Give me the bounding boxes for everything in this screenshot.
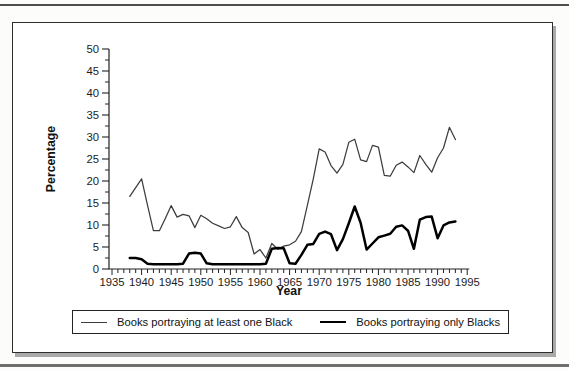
y-tick-label: 15 (86, 197, 99, 209)
x-tick-label: 1970 (307, 276, 332, 288)
axes (109, 49, 469, 269)
legend-thin-line-sample (81, 322, 107, 323)
series-line-1 (130, 207, 456, 265)
y-tick-label: 40 (86, 87, 99, 99)
y-tick-label: 50 (86, 43, 99, 55)
legend: Books portraying at least one Black Book… (72, 310, 509, 334)
legend-label-at-least-one: Books portraying at least one Black (117, 316, 292, 328)
x-tick-label: 1945 (159, 276, 184, 288)
chart-panel: 0510152025303540455019351940194519501955… (12, 22, 553, 353)
x-tick-label: 1935 (99, 276, 124, 288)
legend-item-at-least-one: Books portraying at least one Black (81, 316, 292, 328)
figure-page: 0510152025303540455019351940194519501955… (0, 0, 569, 371)
x-tick-label: 1995 (455, 276, 480, 288)
y-tick-label: 35 (86, 109, 99, 121)
y-tick-label: 5 (93, 241, 99, 253)
x-axis-title: Year (276, 284, 302, 298)
legend-label-only-blacks: Books portraying only Blacks (356, 316, 500, 328)
x-tick-label: 1960 (247, 276, 272, 288)
y-tick-label: 25 (86, 153, 99, 165)
x-tick-label: 1955 (218, 276, 243, 288)
legend-item-only-blacks: Books portraying only Blacks (320, 316, 500, 328)
x-tick-label: 1975 (336, 276, 361, 288)
bottom-rule (0, 364, 569, 367)
y-tick-label: 45 (86, 65, 99, 77)
x-tick-label: 1950 (188, 276, 213, 288)
y-axis-title: Percentage (44, 126, 58, 192)
series-line-0 (130, 127, 456, 258)
y-tick-label: 0 (93, 263, 99, 275)
y-tick-label: 30 (86, 131, 99, 143)
legend-thick-line-sample (320, 321, 346, 323)
top-rule (0, 4, 569, 6)
x-tick-label: 1990 (425, 276, 450, 288)
y-tick-label: 10 (86, 219, 99, 231)
x-tick-label: 1985 (395, 276, 420, 288)
y-tick-label: 20 (86, 175, 99, 187)
line-chart: 0510152025303540455019351940194519501955… (13, 23, 552, 352)
x-tick-label: 1980 (366, 276, 391, 288)
x-tick-label: 1940 (129, 276, 154, 288)
